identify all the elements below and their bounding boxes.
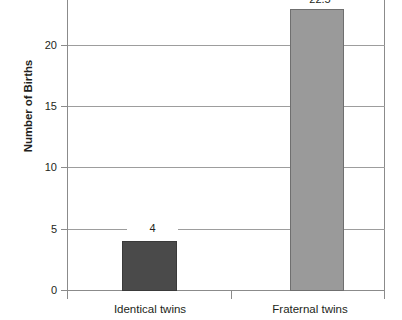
- y-tick-mark-20: [61, 45, 68, 46]
- y-tick-label-0: 0: [17, 285, 57, 296]
- y-tick-mark-10: [61, 167, 68, 168]
- x-tick-mark-right: [384, 291, 385, 299]
- y-tick-label-5: 5: [17, 224, 57, 235]
- y-tick-mark-5: [61, 229, 68, 230]
- y-tick-label-15: 15: [17, 101, 57, 112]
- x-tick-mark-left: [67, 291, 68, 299]
- bar-identical-twins[interactable]: [122, 241, 177, 291]
- bar-value-label-identical-twins: 4: [127, 223, 178, 234]
- x-category-label-identical-twins: Identical twins: [72, 303, 228, 315]
- bar-value-label-fraternal-twins: 22.5: [294, 0, 346, 5]
- x-tick-mark-middle: [231, 291, 232, 299]
- y-tick-label-10: 10: [17, 162, 57, 173]
- bar-fraternal-twins[interactable]: [290, 9, 344, 291]
- y-tick-mark-15: [61, 106, 68, 107]
- bar-chart: Number of Births 20 15 10 5 0 4 22.5 Ide…: [0, 0, 402, 320]
- y-tick-label-20: 20: [17, 40, 57, 51]
- x-category-label-fraternal-twins: Fraternal twins: [235, 303, 385, 315]
